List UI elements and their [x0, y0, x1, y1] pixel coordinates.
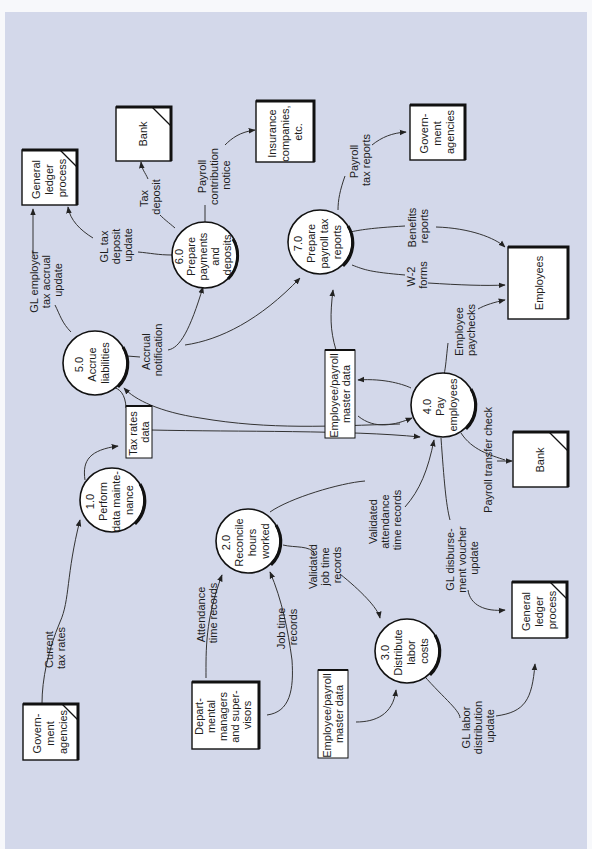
process-4-0[interactable]: 4.0 Pay employees [411, 373, 476, 437]
flow-label-payroll-tax-reports: Payroll tax reports [348, 134, 372, 186]
flow-label-gl-labor-distribution: GL labor distribution update [460, 698, 496, 754]
flow-label-employee-paychecks: Employee paychecks [453, 304, 477, 356]
flow-label-payroll-contribution-notice: Payroll contribution notice [196, 145, 232, 205]
process-6-0[interactable]: 6.0 Prepare payments and deposits [172, 222, 238, 288]
process-2-0[interactable]: 2.0 Reconcile hours worked [216, 509, 281, 573]
svg-text:Bank: Bank [137, 121, 149, 147]
flow-label-attendance-time-records: Attendance time records [195, 582, 219, 643]
entity-insurance-companies[interactable]: Insurance companies, etc. [256, 101, 314, 162]
datastore-employee-master-bottom[interactable]: Employee/payroll master data [318, 670, 348, 758]
process-5-0[interactable]: 5.0 Accrue liabilities [63, 331, 128, 395]
flow-label-accrual-notification: Accrual notification [140, 324, 164, 377]
entity-employees[interactable]: Employees [508, 247, 568, 319]
entity-departmental-managers[interactable]: Depart- mental managers and super- visor… [192, 682, 259, 749]
flow-label-job-time-records: Job time records [275, 605, 299, 650]
svg-text:General ledger: General ledger process [520, 589, 558, 631]
entity-bank-top[interactable]: Bank [116, 107, 171, 161]
flow-label-gl-tax-deposit-update: GL tax deposit update [98, 226, 134, 265]
process-7-0[interactable]: 7.0 Prepare payroll tax reports [288, 210, 353, 274]
flow-label-validated-job-time: Validated job time records [307, 541, 343, 589]
entity-general-ledger-top[interactable]: General ledger process [22, 150, 77, 205]
datastore-employee-master-top[interactable]: Employee/payroll master data [325, 350, 355, 438]
process-3-0[interactable]: 3.0 Distribute labor costs [375, 619, 440, 683]
flow-label-validated-attendance: Validated attendance time records [367, 489, 403, 550]
entity-government-agencies-right[interactable]: Govern- ment agencies [410, 105, 465, 160]
svg-text:Bank: Bank [534, 447, 546, 473]
entity-government-agencies-left[interactable]: Govern- ment agencies [23, 704, 78, 760]
svg-text:Employees: Employees [533, 255, 545, 310]
process-1-0[interactable]: 1.0 Perform data mainte- nance [80, 468, 145, 532]
data-flow-diagram: 1.0 Perform data mainte- nance 2.0 Recon… [0, 0, 592, 849]
entity-general-ledger-right[interactable]: General ledger process [512, 582, 567, 638]
flow-label-current-tax-rates: Current tax rates [43, 626, 67, 669]
process-1-0-number: 1.0 [84, 494, 96, 509]
entity-bank-right[interactable]: Bank [513, 432, 568, 487]
flow-label-gl-employer-tax-accrual: GL employer tax accrual update [28, 247, 64, 313]
flow-label-benefits-reports: Benefits reports [406, 205, 430, 248]
flow-label-w2-forms: W-2 forms [405, 261, 429, 289]
flow-label-gl-disbursement-voucher: GL disburse- ment voucher update [444, 523, 480, 593]
svg-text:General ledger: General ledger process [30, 157, 68, 199]
datastore-tax-rates[interactable]: Tax rates data [126, 406, 152, 458]
flow-label-payroll-transfer-check: Payroll transfer check [482, 407, 494, 513]
flow-label-tax-deposit: Tax deposit [138, 179, 162, 214]
